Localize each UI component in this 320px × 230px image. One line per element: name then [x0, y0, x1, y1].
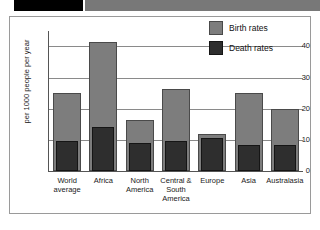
bar-death-rates: [56, 141, 78, 171]
chart-frame: 010203040 per 1000 people per year World…: [9, 16, 311, 214]
legend-label-death-rates: Death rates: [229, 43, 273, 53]
death-rates-swatch-icon: [209, 41, 223, 55]
bar-death-rates: [165, 141, 187, 171]
y-axis-title: per 1000 people per year: [22, 22, 31, 142]
x-axis-line: [48, 171, 303, 172]
birth-rates-swatch-icon: [209, 21, 223, 35]
header-black-block: [14, 0, 83, 11]
gridline-30: [48, 78, 303, 79]
legend-item-death-rates: Death rates: [209, 40, 304, 57]
y-axis-line: [48, 31, 49, 172]
bar-death-rates: [274, 145, 296, 171]
category-label: Australasia: [264, 176, 306, 185]
chart-legend: Birth rates Death rates: [209, 20, 304, 60]
legend-item-birth-rates: Birth rates: [209, 20, 304, 37]
legend-label-birth-rates: Birth rates: [229, 23, 268, 33]
bar-death-rates: [201, 138, 223, 171]
bar-death-rates: [238, 145, 260, 171]
bar-death-rates: [129, 143, 151, 171]
y-tick-label-30: 30: [280, 74, 310, 82]
bar-death-rates: [92, 127, 114, 171]
header-grey-block: [85, 0, 320, 11]
header-strip: [0, 0, 320, 11]
